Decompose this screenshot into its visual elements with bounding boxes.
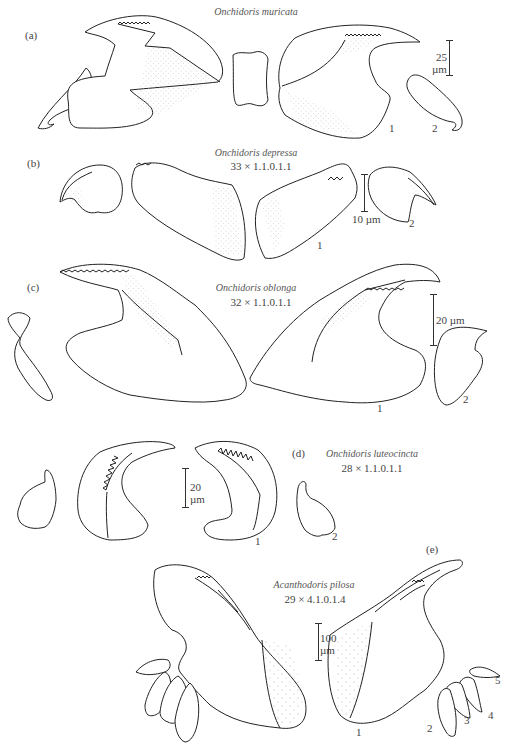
radula-formula-b: 33 × 1.1.0.1.1 (206, 161, 316, 172)
tooth-label-a-2: 2 (432, 123, 438, 134)
marginal-tooth-right (434, 327, 487, 405)
scale-unit-e: µm (320, 645, 337, 657)
marginal-tooth-left (18, 470, 56, 528)
marginal-tooth-right (297, 482, 335, 537)
tooth-drawings (0, 0, 509, 750)
radula-teeth-figure: Onchidoris muricata (a) 25 µm 1 2 Onchid… (0, 0, 509, 750)
panel-b-drawings (60, 163, 436, 260)
tooth-label-b-2: 2 (409, 218, 415, 229)
scale-unit-b: µm (366, 213, 381, 225)
scale-bar-b (364, 174, 365, 212)
panel-d-drawings (18, 441, 335, 540)
scale-value-c: 20 (436, 314, 447, 326)
scale-label-b: 10 µm (352, 214, 381, 226)
panel-label-a: (a) (25, 30, 37, 41)
scale-value-b: 10 (352, 213, 363, 225)
tooth-label-e-4: 4 (488, 710, 494, 721)
scale-bar-c (433, 294, 434, 346)
species-name-a: Onchidoris muricata (196, 7, 316, 17)
tooth-label-e-5: 5 (495, 675, 501, 686)
rachidian-tooth (233, 52, 268, 106)
marginal-tooth-left (8, 313, 53, 401)
panel-label-e: (e) (426, 544, 438, 555)
panel-label-d: (d) (292, 448, 305, 459)
radula-formula-e: 29 × 4.1.0.1.4 (270, 594, 360, 605)
tooth-label-c-1: 1 (377, 403, 383, 414)
scale-value-e: 100 (320, 633, 337, 645)
species-name-c: Onchidoris oblonga (196, 283, 316, 293)
tooth-label-d-1: 1 (255, 536, 261, 547)
tooth-label-e-3: 3 (464, 715, 470, 726)
scale-value-d: 20 (190, 482, 205, 494)
scale-label-c: 20 µm (436, 315, 465, 327)
panel-label-b: (b) (27, 158, 40, 169)
species-name-d: Onchidoris luteocincta (322, 449, 422, 459)
scale-label-a: 25 µm (432, 52, 447, 75)
tooth-label-c-2: 2 (463, 394, 469, 405)
species-name-b: Onchidoris depressa (196, 148, 316, 158)
scale-bar-d (185, 468, 186, 508)
panel-a-drawings (38, 16, 462, 138)
scale-unit-d: µm (190, 494, 205, 506)
scale-unit-a: µm (432, 64, 447, 76)
species-name-e: Acanthodoris pilosa (264, 580, 364, 590)
tooth-label-a-1: 1 (389, 123, 395, 134)
tooth-label-b-1: 1 (317, 240, 323, 251)
radula-formula-c: 32 × 1.1.0.1.1 (206, 297, 316, 308)
lateral-tooth-right (195, 441, 277, 540)
scale-value-a: 25 (432, 52, 447, 64)
scale-unit-c: µm (450, 314, 465, 326)
scale-label-e: 100 µm (320, 633, 337, 656)
lateral-tooth-left (78, 442, 175, 540)
tooth-label-e-1: 1 (356, 727, 362, 738)
scale-bar-e (318, 623, 319, 661)
scale-bar-a (449, 40, 450, 76)
radula-formula-d: 28 × 1.1.0.1.1 (327, 463, 417, 474)
panel-label-c: (c) (27, 282, 39, 293)
tooth-label-e-2: 2 (427, 723, 433, 734)
tooth-label-d-2: 2 (332, 531, 338, 542)
scale-label-d: 20 µm (190, 482, 205, 505)
